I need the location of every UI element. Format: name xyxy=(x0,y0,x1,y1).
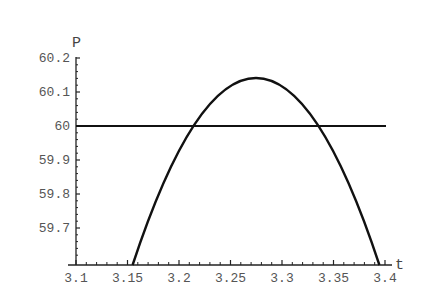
x-tick-label: 3.3 xyxy=(270,271,293,286)
y-axis-label: P xyxy=(72,35,81,52)
x-axis-label: t xyxy=(395,257,404,274)
x-tick-label: 3.15 xyxy=(112,271,143,286)
y-tick-label: 60 xyxy=(54,119,70,134)
x-tick-label: 3.4 xyxy=(373,271,397,286)
x-tick-label: 3.25 xyxy=(215,271,246,286)
y-tick-label: 60.2 xyxy=(39,51,70,66)
x-tick-label: 3.1 xyxy=(64,271,88,286)
curve-p-of-t xyxy=(133,78,380,265)
chart: 60.2 60.1 60 59.9 59.8 59.7 3.1 3.15 3.2… xyxy=(0,0,424,303)
y-tick-label: 59.7 xyxy=(39,221,70,236)
y-tick-label: 59.8 xyxy=(39,187,70,202)
y-tick-label: 60.1 xyxy=(39,85,70,100)
x-tick-label: 3.35 xyxy=(318,271,349,286)
x-tick-label: 3.2 xyxy=(167,271,190,286)
x-axis-major-ticks xyxy=(76,260,385,265)
y-tick-label: 59.9 xyxy=(39,153,70,168)
